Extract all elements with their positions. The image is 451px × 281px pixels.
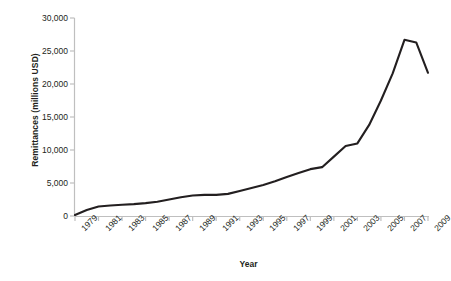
x-tick-label: 2005 bbox=[385, 213, 405, 233]
x-tick-label: 2009 bbox=[432, 213, 451, 233]
x-tick-label: 1981 bbox=[103, 213, 123, 233]
x-axis-tick-labels: 1979198119831985198719891991199319951997… bbox=[0, 0, 451, 281]
x-tick-label: 2001 bbox=[338, 213, 358, 233]
x-tick-label: 1989 bbox=[197, 213, 217, 233]
x-tick-label: 2003 bbox=[361, 213, 381, 233]
x-tick-label: 1983 bbox=[126, 213, 146, 233]
remittances-line-chart: Remittances (millions USD) 30,000 25,000… bbox=[0, 0, 451, 281]
x-tick-label: 2007 bbox=[408, 213, 428, 233]
x-tick-label: 1987 bbox=[173, 213, 193, 233]
x-axis-title: Year bbox=[0, 259, 451, 269]
x-tick-label: 1993 bbox=[244, 213, 264, 233]
x-tick-label: 1979 bbox=[79, 213, 99, 233]
x-tick-label: 1985 bbox=[150, 213, 170, 233]
x-tick-label: 1991 bbox=[220, 213, 240, 233]
x-tick-label: 1999 bbox=[314, 213, 334, 233]
x-tick-label: 1997 bbox=[291, 213, 311, 233]
x-tick-label: 1995 bbox=[267, 213, 287, 233]
